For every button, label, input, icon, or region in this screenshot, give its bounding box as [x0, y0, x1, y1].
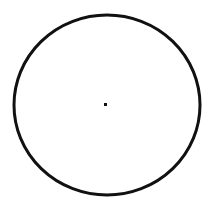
- center-point: [104, 103, 107, 106]
- diagram-canvas: [0, 0, 214, 206]
